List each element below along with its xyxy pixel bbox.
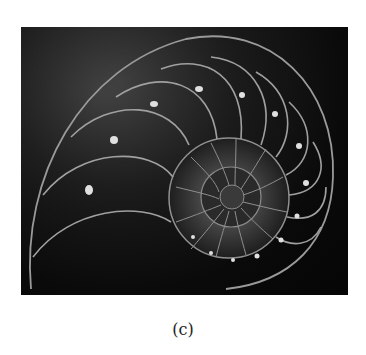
nautilus-shell-photo xyxy=(21,27,348,295)
figure-caption: (c) xyxy=(0,320,366,339)
nautilus-shell-illustration xyxy=(21,27,348,295)
figure: (c) xyxy=(0,0,366,355)
